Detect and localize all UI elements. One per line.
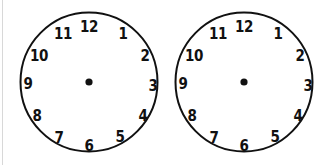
clock-2-numeral-1: 1	[274, 27, 283, 42]
clock-1-numeral-7: 7	[55, 131, 64, 146]
clock-2-numeral-10: 10	[185, 49, 203, 64]
clock-2-numeral-6: 6	[240, 139, 249, 154]
clock-2-numeral-8: 8	[188, 109, 197, 124]
clock-2-numeral-12: 12	[235, 20, 253, 35]
clock-1-numeral-8: 8	[33, 109, 42, 124]
worksheet-page: 12 1 2 3 4 5 6 7 8 9 10 11 12 1 2 3 4 5 …	[0, 0, 327, 165]
clock-face-2[interactable]: 12 1 2 3 4 5 6 7 8 9 10 11	[174, 11, 314, 153]
clock-1-numeral-11: 11	[54, 27, 72, 42]
clock-1-numeral-5: 5	[116, 130, 125, 145]
clock-1-numeral-4: 4	[139, 109, 148, 124]
clock-2-numeral-5: 5	[271, 130, 280, 145]
clock-1-numeral-3: 3	[149, 79, 158, 94]
clock-1-numeral-6: 6	[85, 139, 94, 154]
clock-2-center-dot	[240, 78, 247, 85]
clock-2-numeral-2: 2	[296, 49, 305, 64]
clock-1-numeral-1: 1	[119, 27, 128, 42]
clock-2-numeral-9: 9	[179, 77, 188, 92]
page-edge-rule	[2, 0, 3, 165]
clock-1-numeral-12: 12	[80, 20, 98, 35]
clock-1-center-dot	[85, 78, 92, 85]
clock-1-numeral-2: 2	[141, 49, 150, 64]
clock-2-numeral-4: 4	[294, 109, 303, 124]
clock-2-numeral-7: 7	[210, 131, 219, 146]
clock-2-numeral-11: 11	[209, 27, 227, 42]
clock-1-numeral-9: 9	[24, 77, 33, 92]
clock-1-numeral-10: 10	[30, 49, 48, 64]
clock-2-numeral-3: 3	[304, 79, 313, 94]
clock-face-1[interactable]: 12 1 2 3 4 5 6 7 8 9 10 11	[19, 11, 159, 153]
